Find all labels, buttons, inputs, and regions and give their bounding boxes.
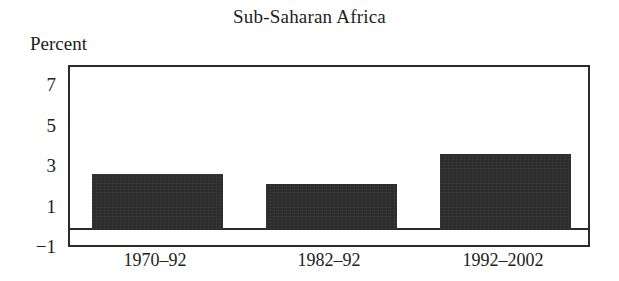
y-tick-label: 7 <box>16 75 56 94</box>
chart-title: Sub-Saharan Africa <box>0 6 619 28</box>
y-tick-label: 1 <box>16 197 56 216</box>
chart-figure: Sub-Saharan Africa Percent 7531−1 1970–9… <box>0 0 619 281</box>
y-tick-label: −1 <box>16 237 56 256</box>
x-tick-label: 1992–2002 <box>416 250 590 271</box>
bar <box>92 174 223 229</box>
y-tick-label: 3 <box>16 156 56 175</box>
y-axis-label: Percent <box>30 33 87 55</box>
plot-inner <box>70 67 588 245</box>
x-tick-label: 1982–92 <box>242 250 416 271</box>
plot-area <box>68 65 590 247</box>
x-tick-label: 1970–92 <box>68 250 242 271</box>
bar <box>440 154 571 229</box>
bar <box>266 184 397 228</box>
y-tick-label: 5 <box>16 116 56 135</box>
